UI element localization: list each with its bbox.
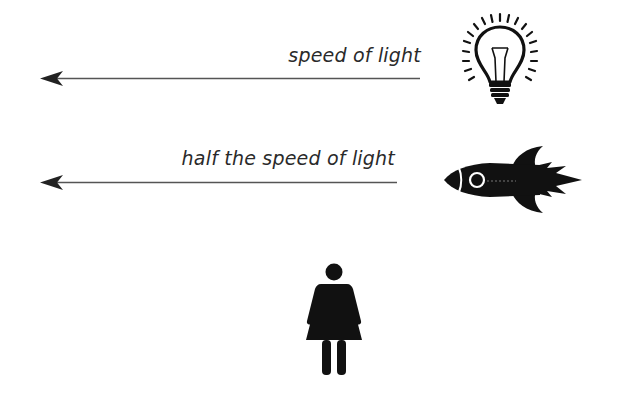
label-speed-of-light: speed of light [288,44,421,66]
rocket-icon [444,146,582,213]
arrow-half-speed-of-light [40,175,397,190]
lightbulb-icon [463,14,537,104]
label-half-speed-of-light: half the speed of light [182,147,395,169]
woman-figure-icon [306,264,362,376]
diagram-canvas: speed of light half the speed of light [0,0,617,397]
arrow-speed-of-light [40,71,420,86]
